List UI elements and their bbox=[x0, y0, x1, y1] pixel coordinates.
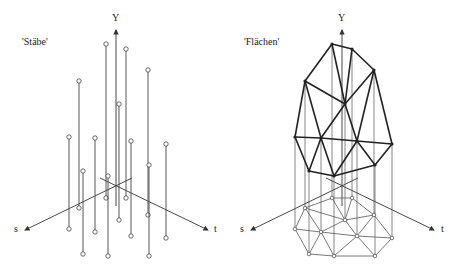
base-mesh-edge bbox=[374, 215, 392, 238]
surface-mesh-edge bbox=[345, 104, 357, 141]
base-mesh-edge bbox=[375, 238, 392, 256]
surface-mesh-edge bbox=[295, 81, 305, 137]
base-mesh-edge bbox=[295, 229, 321, 232]
surface-mesh-edge bbox=[321, 104, 345, 138]
rod-bottom-node bbox=[67, 227, 71, 231]
surface-mesh-edge bbox=[332, 44, 345, 104]
base-mesh-edge bbox=[357, 236, 375, 256]
right-y-label: Y bbox=[338, 12, 345, 23]
base-mesh-edge bbox=[295, 229, 309, 254]
right-s-label: s bbox=[240, 223, 244, 234]
rod-bottom-node bbox=[117, 218, 121, 222]
left-s-label: s bbox=[14, 223, 18, 234]
base-mesh-edge bbox=[309, 232, 321, 254]
base-mesh-node bbox=[303, 206, 307, 210]
base-mesh-node bbox=[350, 196, 354, 200]
surface-mesh-node bbox=[303, 79, 306, 82]
rod-bottom-node bbox=[93, 230, 97, 234]
surface-mesh-node bbox=[390, 142, 393, 145]
rod-top-node bbox=[129, 139, 133, 143]
left-y-label: Y bbox=[112, 12, 119, 23]
base-mesh-edge bbox=[357, 236, 392, 238]
surface-mesh-node bbox=[350, 47, 353, 50]
surface-mesh-node bbox=[307, 169, 310, 172]
surface-mesh-node bbox=[319, 136, 322, 139]
surface-mesh-edge bbox=[309, 138, 321, 171]
rod-top-node bbox=[147, 163, 151, 167]
rod-top-node bbox=[146, 68, 150, 72]
surface-mesh-node bbox=[293, 135, 296, 138]
surface-mesh-edge bbox=[295, 137, 321, 138]
rod-bottom-node bbox=[104, 196, 108, 200]
rod-top-node bbox=[77, 79, 81, 83]
base-mesh-node bbox=[373, 254, 377, 258]
surface-mesh-edge bbox=[357, 141, 375, 165]
rod-bottom-node bbox=[77, 206, 81, 210]
base-mesh-edge bbox=[321, 232, 334, 256]
surface-mesh-edge bbox=[321, 138, 357, 141]
surface-mesh-node bbox=[330, 42, 333, 45]
base-mesh-edge bbox=[305, 208, 321, 232]
rod-top-node bbox=[93, 136, 97, 140]
base-mesh-node bbox=[343, 218, 347, 222]
base-mesh-node bbox=[390, 236, 394, 240]
base-mesh-node bbox=[330, 196, 334, 200]
base-mesh-edge bbox=[345, 220, 357, 236]
rod-bottom-node bbox=[146, 213, 150, 217]
rod-top-node bbox=[164, 142, 168, 146]
surface-mesh-edge bbox=[352, 49, 374, 70]
base-mesh-edge bbox=[295, 208, 305, 229]
surface-mesh-edge bbox=[309, 171, 334, 176]
right-t-label: t bbox=[441, 223, 444, 234]
surface-mesh-edge bbox=[374, 70, 392, 144]
surface-mesh-node bbox=[343, 102, 346, 105]
surface-mesh-edge bbox=[305, 44, 332, 81]
base-mesh-node bbox=[293, 227, 297, 231]
surface-mesh-edge bbox=[375, 144, 392, 165]
diagram-canvas bbox=[0, 0, 456, 269]
surface-mesh-node bbox=[373, 163, 376, 166]
base-mesh-edge bbox=[357, 215, 374, 236]
base-mesh-node bbox=[372, 213, 376, 217]
base-mesh-edge bbox=[345, 215, 374, 220]
surface-mesh-node bbox=[332, 174, 335, 177]
base-mesh-node bbox=[355, 234, 359, 238]
right-title: 'Flächen' bbox=[244, 36, 279, 47]
rod-bottom-node bbox=[106, 254, 110, 258]
base-mesh-edge bbox=[345, 198, 352, 220]
surface-mesh-node bbox=[372, 68, 375, 71]
surface-mesh-edge bbox=[357, 141, 392, 144]
base-mesh-edge bbox=[321, 220, 345, 232]
rod-top-node bbox=[104, 42, 108, 46]
surface-mesh-node bbox=[355, 139, 358, 142]
rod-top-node bbox=[67, 135, 71, 139]
base-mesh-edge bbox=[352, 198, 374, 215]
rod-bottom-node bbox=[129, 234, 133, 238]
rod-bottom-node bbox=[164, 236, 168, 240]
rod-bottom-node bbox=[147, 254, 151, 258]
rod-bottom-node bbox=[81, 252, 85, 256]
base-mesh-node bbox=[319, 230, 323, 234]
left-title: 'Stäbe' bbox=[22, 36, 48, 47]
rod-bottom-node bbox=[124, 196, 128, 200]
base-mesh-node bbox=[332, 254, 336, 258]
base-mesh-edge bbox=[321, 232, 357, 236]
rod-top-node bbox=[117, 102, 121, 106]
base-mesh-edge bbox=[334, 236, 357, 256]
base-mesh-edge bbox=[309, 254, 334, 256]
left-t-label: t bbox=[214, 223, 217, 234]
surface-mesh-edge bbox=[345, 49, 352, 104]
rod-top-node bbox=[124, 47, 128, 51]
surface-mesh-edge bbox=[295, 137, 309, 171]
rod-top-node bbox=[106, 174, 110, 178]
base-mesh-node bbox=[307, 252, 311, 256]
rod-top-node bbox=[81, 169, 85, 173]
